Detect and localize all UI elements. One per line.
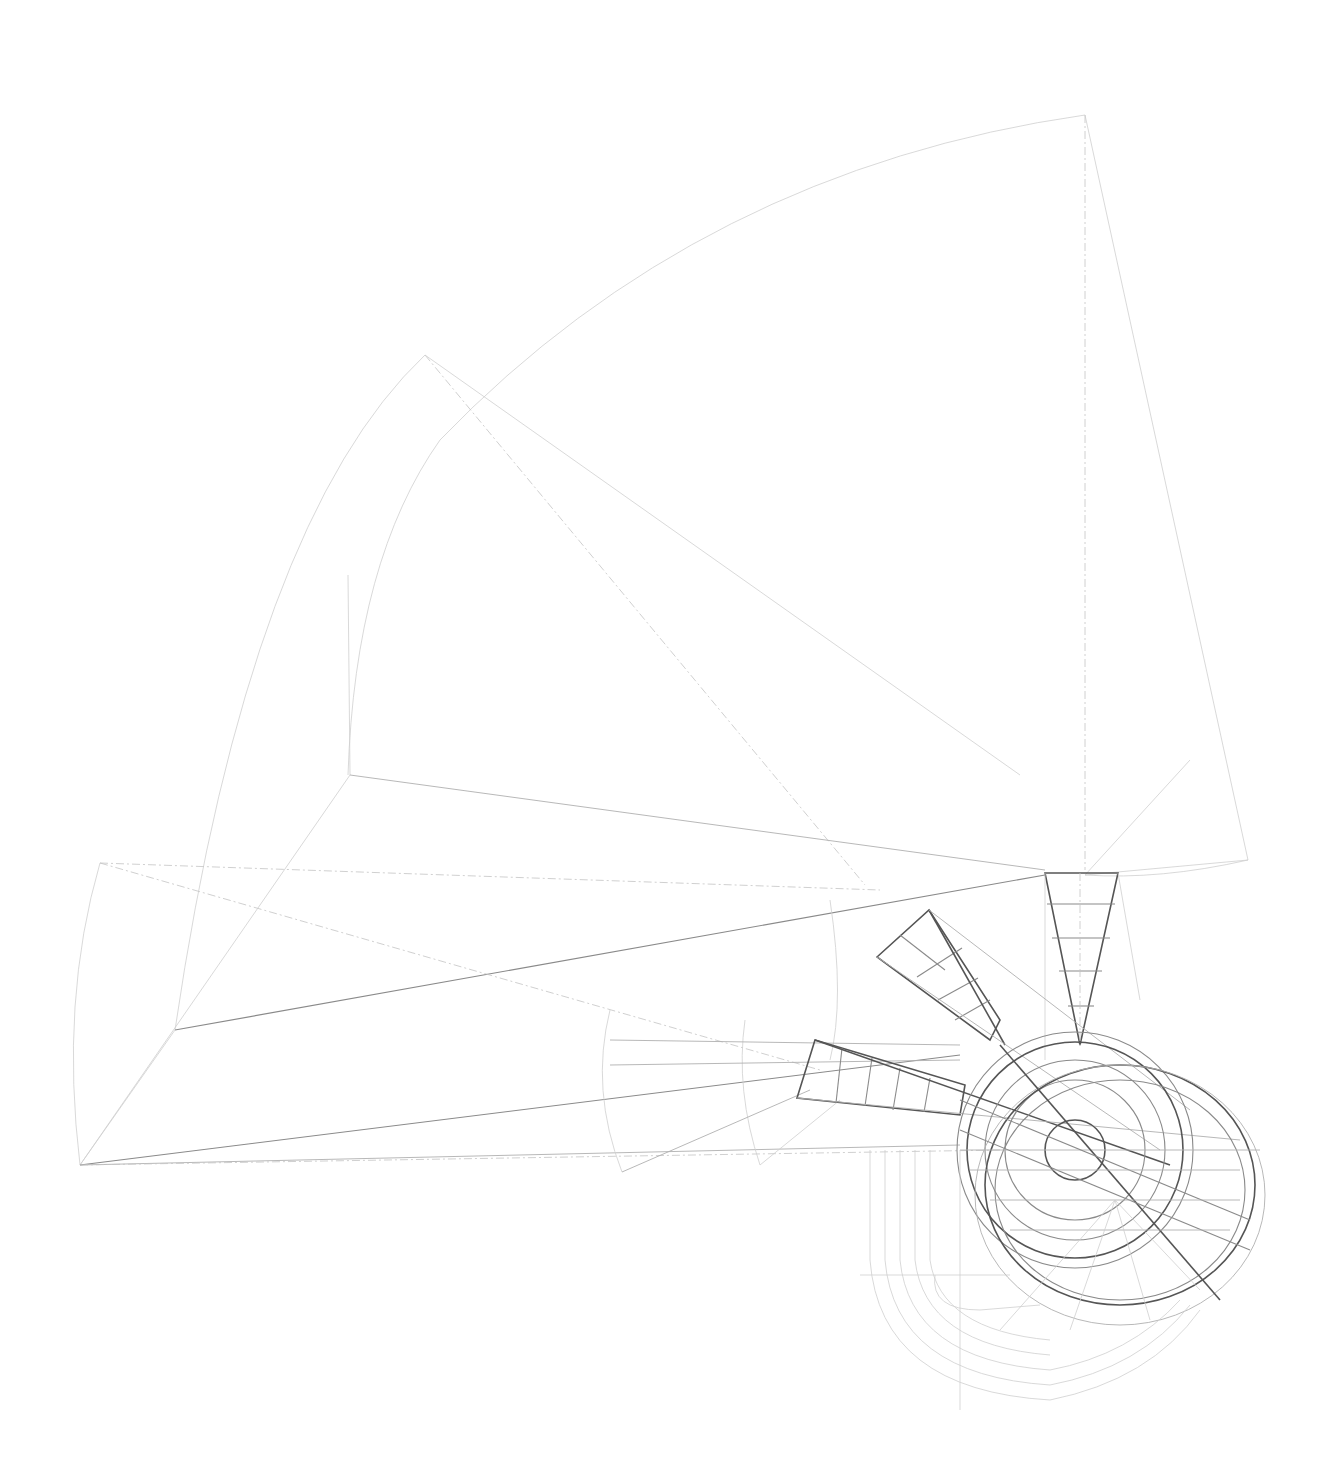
left-sector: [73, 775, 1000, 1165]
lower-offset-curves: [860, 1150, 1200, 1410]
vertical-frame: [1045, 873, 1140, 1060]
large-sector: [348, 115, 1248, 876]
construction-diagram: [0, 0, 1331, 1481]
diagonal-frame: [877, 910, 1190, 1150]
focal-construction: [957, 1032, 1265, 1330]
secondary-arcs: [602, 1010, 960, 1172]
middle-sector: [175, 355, 1045, 1030]
